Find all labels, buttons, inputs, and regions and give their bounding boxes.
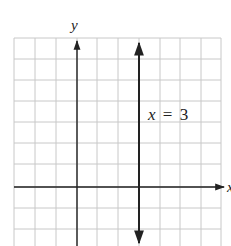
y-axis-label: y — [69, 17, 78, 33]
grid — [14, 38, 221, 246]
x-axis-label: x — [226, 179, 231, 195]
graph: y x x = 3 — [0, 0, 231, 246]
line-equation-label: x = 3 — [147, 105, 188, 124]
